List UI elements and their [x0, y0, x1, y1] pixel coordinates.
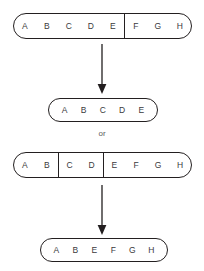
segment-e-h: E F G H — [103, 153, 192, 177]
letter-cell: D — [113, 106, 132, 115]
letter-cell: B — [66, 246, 85, 255]
offspring-capsule-second: A B E F G H — [40, 238, 168, 262]
parent-capsule-top: A B C D E F G H — [13, 13, 192, 39]
offspring-capsule-first: A B C D E — [48, 98, 158, 122]
letter-cell: G — [147, 161, 169, 170]
letter-cell: A — [47, 246, 66, 255]
letter-cell: H — [169, 22, 191, 31]
crossover-diagram: A B C D E F G H A B C D E or A B — [0, 0, 204, 271]
segment-a-b: A B — [14, 153, 58, 177]
letter-cell: A — [14, 161, 36, 170]
letter-cell: A — [14, 22, 36, 31]
letter-cell: B — [74, 106, 93, 115]
letter-cell: A — [55, 106, 74, 115]
letter-cell: H — [169, 161, 191, 170]
segment-c-d: C D — [58, 153, 103, 177]
segment-f-h: F G H — [124, 14, 191, 38]
letter-cell: B — [36, 22, 58, 31]
letter-cell: C — [59, 161, 81, 170]
or-label: or — [0, 129, 204, 138]
letter-cell: B — [36, 161, 58, 170]
segment-abefgh: A B E F G H — [41, 239, 167, 261]
letter-cell: C — [58, 22, 80, 31]
letter-cell: G — [147, 22, 169, 31]
letter-cell: D — [80, 22, 102, 31]
segment-a-e-only: A B C D E — [49, 99, 157, 121]
letter-cell: F — [125, 161, 147, 170]
letter-cell: E — [85, 246, 104, 255]
letter-cell: E — [104, 161, 126, 170]
parent-capsule-bottom: A B C D E F G H — [13, 152, 192, 178]
letter-cell: H — [142, 246, 161, 255]
letter-cell: G — [123, 246, 142, 255]
letter-cell: F — [125, 22, 147, 31]
down-arrow-top — [94, 44, 112, 96]
letter-cell: F — [104, 246, 123, 255]
letter-cell: E — [132, 106, 151, 115]
segment-a-e: A B C D E — [14, 14, 124, 38]
down-arrow-bottom — [94, 185, 112, 237]
letter-cell: C — [93, 106, 112, 115]
letter-cell: D — [81, 161, 103, 170]
letter-cell: E — [102, 22, 124, 31]
